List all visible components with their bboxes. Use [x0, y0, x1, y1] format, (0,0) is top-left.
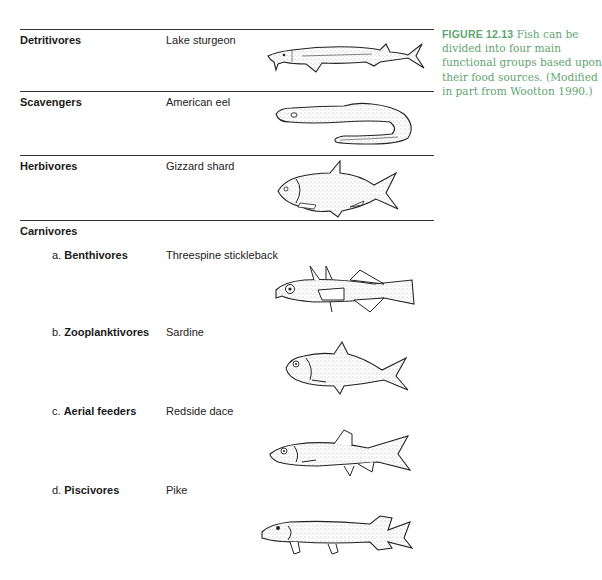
gizzard-shad-illustration-icon — [274, 157, 406, 219]
sardine-illustration-icon — [284, 340, 414, 400]
subgroup-prefix: b. — [52, 326, 64, 338]
divider — [20, 220, 434, 221]
divider — [20, 91, 434, 92]
divider — [20, 155, 434, 156]
subgroup-label-aerial-feeders: c. Aerial feeders — [52, 405, 136, 418]
subgroup-prefix: a. — [52, 249, 64, 261]
species-pike: Pike — [166, 484, 187, 497]
subgroup-prefix: d. — [52, 484, 64, 496]
species-threespine-stickleback: Threespine stickleback — [166, 249, 278, 262]
species-redside-dace: Redside dace — [166, 405, 233, 418]
subgroup-label-piscivores: d. Piscivores — [52, 484, 119, 497]
subgroup-name: Zooplanktivores — [64, 326, 149, 338]
subgroup-name: Piscivores — [64, 484, 119, 496]
subgroup-label-zooplanktivores: b. Zooplanktivores — [52, 326, 149, 339]
sturgeon-illustration-icon — [262, 38, 430, 74]
species-lake-sturgeon: Lake sturgeon — [166, 34, 236, 47]
group-label-herbivores: Herbivores — [20, 160, 77, 173]
divider — [20, 29, 434, 30]
figure-label: FIGURE 12.13 — [442, 28, 513, 40]
dace-illustration-icon — [268, 428, 420, 480]
group-label-detritivores: Detritivores — [20, 34, 81, 47]
species-gizzard-shard: Gizzard shard — [166, 160, 234, 173]
group-label-carnivores: Carnivores — [20, 225, 77, 238]
figure-caption: FIGURE 12.13 Fish can be divided into fo… — [442, 27, 602, 98]
subgroup-label-benthivores: a. Benthivores — [52, 249, 128, 262]
subgroup-name: Benthivores — [64, 249, 128, 261]
pike-illustration-icon — [260, 512, 420, 558]
subgroup-prefix: c. — [52, 405, 64, 417]
subgroup-name: Aerial feeders — [64, 405, 137, 417]
group-label-scavengers: Scavengers — [20, 96, 82, 109]
eel-illustration-icon — [272, 100, 420, 146]
species-american-eel: American eel — [166, 96, 230, 109]
species-sardine: Sardine — [166, 326, 204, 339]
stickleback-illustration-icon — [274, 264, 424, 314]
